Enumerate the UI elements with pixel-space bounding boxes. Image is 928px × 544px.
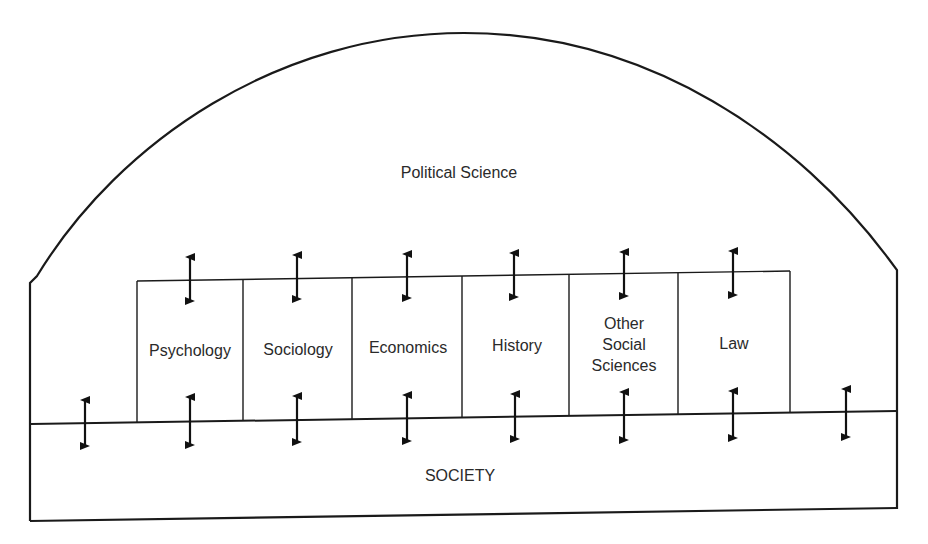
discipline-other-line-1: Other: [574, 313, 674, 334]
discipline-history: History: [492, 335, 542, 356]
political-science-diagram: [0, 0, 928, 544]
political-science-dome-outline: [30, 33, 897, 521]
discipline-law: Law: [719, 333, 748, 354]
discipline-other-line-3: Sciences: [574, 355, 674, 376]
discipline-other-line-2: Social: [574, 334, 674, 355]
society-bottom-line: [30, 508, 897, 521]
discipline-economics: Economics: [369, 337, 447, 358]
discipline-psychology: Psychology: [149, 340, 231, 361]
discipline-other-social-sciences: Other Social Sciences: [574, 313, 674, 376]
discipline-columns: [137, 271, 790, 422]
society-top-line: [31, 411, 897, 424]
society-label: SOCIETY: [425, 465, 495, 486]
discipline-sociology: Sociology: [263, 339, 332, 360]
political-science-label: Political Science: [401, 162, 518, 183]
